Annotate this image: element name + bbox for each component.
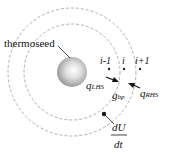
node-dot-i-plus-1 — [139, 68, 141, 70]
du-dt-denominator: dt — [114, 139, 123, 150]
du-dt-numerator: dU — [112, 122, 125, 133]
node-label-i-minus-1: i-1 — [100, 56, 111, 66]
g-bp-subscript: bp — [118, 93, 125, 101]
node-label-i: i — [122, 56, 125, 66]
q-lhs-term: qLHS — [86, 76, 104, 92]
q-rhs-subscript: RHS — [146, 91, 159, 99]
thermoseed-leader — [58, 46, 70, 58]
thermoseed-diagram: thermoseed i-1 i i+1 qLHS gbp qRHS dU dt — [0, 0, 172, 157]
node-label-i-plus-1: i+1 — [135, 56, 150, 66]
node-dot-i — [123, 68, 125, 70]
g-bp-term: gbp — [112, 86, 125, 102]
q-rhs-term: qRHS — [140, 84, 158, 100]
thermoseed-label: thermoseed — [4, 38, 55, 49]
thermoseed-sphere — [57, 57, 87, 87]
q-lhs-arrowhead — [112, 77, 119, 82]
q-lhs-subscript: LHS — [92, 83, 104, 91]
node-dot-i-minus-1 — [108, 68, 110, 70]
